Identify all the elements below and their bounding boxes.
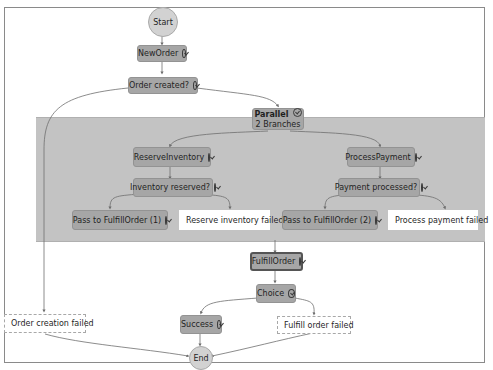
check-circle-icon: [165, 216, 167, 225]
start-node[interactable]: Start: [148, 7, 178, 37]
check-circle-icon: [299, 257, 301, 266]
new-order-node[interactable]: NewOrder: [137, 45, 187, 62]
parallel-node[interactable]: Parallel 2 Branches: [252, 108, 304, 130]
reserve-inventory-failed-node[interactable]: Reserve inventory failed: [179, 210, 270, 230]
process-payment-failed-node[interactable]: Process payment failed: [388, 210, 478, 230]
check-circle-icon: [217, 320, 221, 329]
fulfill-order-failed-node[interactable]: Fulfill order failed: [277, 316, 351, 334]
fulfill-order-node[interactable]: FulfillOrder: [250, 252, 303, 271]
check-circle-icon: [293, 108, 302, 117]
inventory-reserved-choice[interactable]: Inventory reserved?: [133, 178, 213, 197]
order-creation-failed-node[interactable]: Order creation failed: [4, 314, 86, 333]
pass-fulfill-order-1-node[interactable]: Pass to FulfillOrder (1): [72, 210, 168, 230]
check-circle-icon: [288, 289, 295, 298]
pass-fulfill-order-2-node[interactable]: Pass to FulfillOrder (2): [282, 210, 378, 230]
check-circle-icon: [375, 216, 377, 225]
reserve-inventory-node[interactable]: ReserveInventory: [133, 147, 211, 167]
check-circle-icon: [193, 81, 197, 90]
order-created-choice[interactable]: Order created?: [128, 77, 198, 94]
check-circle-icon: [208, 153, 210, 162]
success-node[interactable]: Success: [180, 315, 222, 334]
check-circle-icon: [182, 49, 186, 58]
check-circle-icon: [415, 153, 417, 162]
choice-node[interactable]: Choice: [256, 284, 296, 303]
payment-processed-choice[interactable]: Payment processed?: [338, 178, 420, 197]
process-payment-node[interactable]: ProcessPayment: [347, 147, 415, 167]
end-node[interactable]: End: [189, 346, 213, 370]
